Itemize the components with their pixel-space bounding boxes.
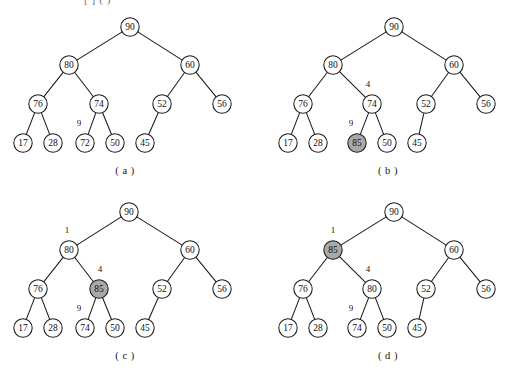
tree-edge [77, 217, 121, 245]
node-52: 52 [153, 95, 171, 113]
node-value-label: 28 [313, 138, 323, 148]
node-value-label: 90 [389, 22, 399, 32]
node-45: 45 [408, 319, 426, 337]
tree-edge [26, 298, 34, 320]
node-60: 60 [445, 56, 463, 74]
node-value-label: 85 [352, 138, 362, 148]
tree-edge [402, 217, 446, 245]
tree-edge [341, 217, 386, 245]
tree-edge [306, 298, 314, 320]
node-56: 56 [477, 95, 495, 113]
tree-edge [340, 72, 366, 98]
node-74: 74 [363, 95, 381, 113]
node-value-label: 80 [328, 60, 338, 70]
node-52: 52 [153, 280, 171, 298]
node-90: 90 [121, 18, 139, 36]
node-45: 45 [136, 319, 154, 337]
node-90: 90 [385, 203, 403, 221]
index-label-4: 4 [366, 264, 371, 274]
tree-edge [309, 72, 328, 96]
tree-edge [341, 32, 386, 60]
node-value-label: 74 [352, 323, 362, 333]
tree-edge [77, 32, 122, 60]
node-value-label: 76 [33, 284, 43, 294]
node-85: 85 [348, 134, 366, 152]
index-label-1: 1 [65, 225, 70, 235]
tree-edge [375, 113, 383, 135]
tree-edge [360, 113, 368, 135]
node-value-label: 56 [217, 99, 227, 109]
node-76: 76 [294, 280, 312, 298]
node-value-label: 80 [64, 60, 74, 70]
node-value-label: 28 [48, 323, 58, 333]
node-76: 76 [29, 95, 47, 113]
tree-edge [196, 72, 216, 97]
node-value-label: 74 [367, 99, 377, 109]
node-value-label: 45 [412, 138, 422, 148]
tree-edge [419, 113, 424, 134]
tree-edge [309, 257, 328, 281]
node-value-label: 52 [421, 284, 431, 294]
node-value-label: 52 [157, 99, 167, 109]
tree-panels-container: 9908060767452561728725045( a )4990806076… [0, 0, 514, 375]
node-value-label: 52 [157, 284, 167, 294]
tree-edge [41, 113, 49, 135]
node-value-label: 76 [298, 99, 308, 109]
node-60: 60 [181, 56, 199, 74]
node-52: 52 [417, 280, 435, 298]
tree-edge [41, 298, 49, 320]
tree-edge [44, 72, 64, 97]
tree-edge [149, 112, 159, 134]
tree-edge [291, 298, 299, 320]
tree-edge [137, 217, 182, 245]
node-value-label: 76 [33, 99, 43, 109]
node-28: 28 [309, 319, 327, 337]
node-value-label: 72 [80, 138, 90, 148]
index-label-9: 9 [349, 118, 354, 128]
tree-edge [306, 113, 314, 135]
tree-edge [460, 72, 480, 97]
node-60: 60 [181, 241, 199, 259]
node-value-label: 76 [298, 284, 308, 294]
panel-b-tree: 49908060767452561728855045 [257, 8, 514, 168]
node-value-label: 50 [382, 138, 392, 148]
node-value-label: 45 [412, 323, 422, 333]
node-45: 45 [136, 134, 154, 152]
panel-c: 149908060768552561728745045 [0, 193, 257, 375]
tree-edge [291, 113, 299, 135]
tree-edge [340, 257, 366, 283]
index-label-9: 9 [77, 303, 82, 313]
node-50: 50 [106, 319, 124, 337]
panel-d-caption: ( d ) [378, 350, 398, 361]
node-50: 50 [378, 319, 396, 337]
tree-edge [88, 298, 96, 320]
node-72: 72 [76, 134, 94, 152]
node-90: 90 [385, 18, 403, 36]
node-value-label: 74 [80, 323, 90, 333]
tree-edge [419, 298, 424, 319]
node-85: 85 [90, 280, 108, 298]
node-value-label: 90 [389, 207, 399, 217]
figure-root: [ ] ( ) 9908060767452561728725045( a )49… [0, 0, 514, 375]
node-value-label: 45 [140, 138, 150, 148]
node-17: 17 [279, 319, 297, 337]
node-28: 28 [44, 134, 62, 152]
node-value-label: 17 [283, 138, 293, 148]
node-value-label: 60 [449, 60, 459, 70]
node-56: 56 [477, 280, 495, 298]
panel-d-tree: 149908560768052561728745045 [257, 193, 514, 353]
node-80: 80 [60, 241, 78, 259]
tree-edge [196, 257, 216, 282]
node-50: 50 [378, 134, 396, 152]
node-value-label: 56 [481, 99, 491, 109]
panel-a-tree: 9908060767452561728725045 [0, 8, 257, 168]
index-label-4: 4 [366, 79, 371, 89]
tree-edge [138, 32, 182, 60]
node-value-label: 80 [64, 245, 74, 255]
node-value-label: 85 [328, 245, 338, 255]
node-74: 74 [348, 319, 366, 337]
tree-edge [102, 113, 111, 135]
panel-d: 149908560768052561728745045 [257, 193, 514, 375]
tree-edge [75, 72, 94, 96]
node-80: 80 [324, 56, 342, 74]
